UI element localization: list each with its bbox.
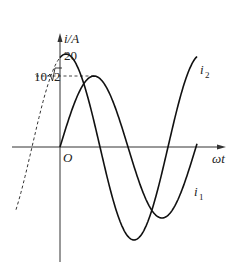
x-axis-label: ωt [212, 151, 225, 166]
tick-label-20: 20 [64, 48, 77, 63]
y-axis-label: i/A [64, 31, 79, 46]
svg-text:2: 2 [54, 69, 61, 84]
y-axis-arrow-icon [58, 33, 63, 42]
label-i1: i 1 [194, 184, 204, 202]
svg-text:1: 1 [199, 192, 204, 202]
label-i2: i 2 [200, 62, 210, 80]
origin-label: O [63, 150, 73, 165]
svg-text:i: i [200, 62, 204, 77]
waveform-diagram: i/A 20 10 2 O ωt i 2 i 1 [0, 0, 236, 267]
svg-text:2: 2 [205, 70, 210, 80]
tick-label-10sqrt2: 10 2 [34, 68, 62, 84]
svg-text:i: i [194, 184, 198, 199]
svg-text:10: 10 [34, 69, 47, 84]
x-axis-arrow-icon [217, 145, 226, 150]
